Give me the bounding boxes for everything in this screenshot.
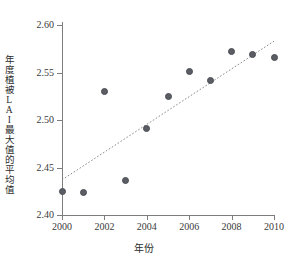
y-tick-label: 2.40 <box>20 210 54 220</box>
scatter-chart-figure: 2.402.452.502.552.60 2000200220042006200… <box>0 0 288 268</box>
y-tick-label: 2.50 <box>20 115 54 125</box>
x-axis-line <box>62 215 275 216</box>
data-point <box>228 48 235 55</box>
trend-line <box>62 25 274 215</box>
y-tick-mark <box>57 73 62 74</box>
x-tick-label: 2004 <box>127 221 167 232</box>
y-tick-label: 2.60 <box>20 20 54 30</box>
x-tick-mark <box>274 215 275 220</box>
y-tick-mark <box>57 120 62 121</box>
data-point <box>207 77 214 84</box>
x-tick-label: 2000 <box>42 221 82 232</box>
y-tick-mark <box>57 168 62 169</box>
x-tick-mark <box>104 215 105 220</box>
data-point <box>249 51 256 58</box>
x-tick-label: 2010 <box>254 221 288 232</box>
y-axis-title: 年度植被LAI最大值的平均值 <box>2 50 16 200</box>
y-tick-mark <box>57 25 62 26</box>
y-tick-label: 2.45 <box>20 163 54 173</box>
data-point <box>80 189 87 196</box>
data-point <box>186 68 193 75</box>
x-tick-mark <box>147 215 148 220</box>
data-point <box>122 177 129 184</box>
data-point <box>101 88 108 95</box>
x-tick-mark <box>232 215 233 220</box>
x-tick-mark <box>62 215 63 220</box>
x-tick-label: 2008 <box>212 221 252 232</box>
data-point <box>143 125 150 132</box>
y-tick-label: 2.55 <box>20 68 54 78</box>
x-tick-mark <box>189 215 190 220</box>
data-point <box>59 188 66 195</box>
data-point <box>271 54 278 61</box>
x-tick-label: 2006 <box>169 221 209 232</box>
x-tick-label: 2002 <box>84 221 124 232</box>
data-point <box>165 93 172 100</box>
x-axis-title: 年份 <box>0 240 288 255</box>
